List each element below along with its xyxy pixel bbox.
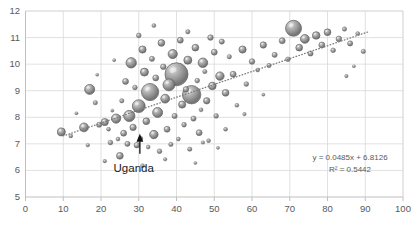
y-tick-5: 5 — [0, 192, 20, 202]
x-tick-50: 50 — [199, 204, 229, 214]
x-tick-20: 20 — [86, 204, 116, 214]
data-points — [57, 20, 365, 167]
y-tick-8: 8 — [0, 112, 20, 122]
plot-canvas — [0, 0, 420, 230]
x-tick-100: 100 — [388, 204, 418, 214]
y-tick-11: 11 — [0, 33, 20, 43]
x-tick-80: 80 — [313, 204, 343, 214]
x-tick-60: 60 — [237, 204, 267, 214]
trendline-equation-box: y = 0.0485x + 6.8126 R² = 0.5442 — [300, 152, 400, 175]
y-tick-6: 6 — [0, 165, 20, 175]
x-tick-10: 10 — [48, 204, 78, 214]
annotation-label-uganda: Uganda — [114, 163, 154, 175]
trendline-r-squared: R² = 0.5442 — [300, 164, 400, 176]
x-tick-0: 0 — [11, 204, 41, 214]
x-tick-30: 30 — [124, 204, 154, 214]
bubble-chart: 56789101112 0102030405060708090100 Ugand… — [0, 0, 420, 230]
y-tick-9: 9 — [0, 86, 20, 96]
trendline-equation: y = 0.0485x + 6.8126 — [300, 152, 400, 164]
x-tick-40: 40 — [162, 204, 192, 214]
y-tick-10: 10 — [0, 59, 20, 69]
y-tick-12: 12 — [0, 6, 20, 16]
x-tick-90: 90 — [350, 204, 380, 214]
y-tick-7: 7 — [0, 139, 20, 149]
x-tick-70: 70 — [275, 204, 305, 214]
